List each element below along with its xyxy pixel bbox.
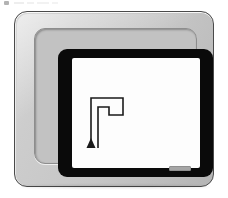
page-scan-artifacts [0, 0, 228, 7]
screenshot-root [0, 0, 228, 198]
scan-artifact [52, 2, 58, 4]
turtle-graphics-canvas [72, 58, 200, 168]
turtle-cursor-icon [87, 138, 96, 148]
scan-artifact [37, 2, 49, 4]
crt-bezel [58, 49, 213, 177]
monitor-brand-badge [169, 166, 191, 171]
crt-monitor-case [14, 11, 214, 187]
turtle-path [91, 98, 123, 148]
scan-artifact [14, 2, 24, 4]
crt-screen[interactable] [72, 58, 200, 168]
bezel-recess-ring [34, 28, 197, 164]
scan-artifact [4, 1, 9, 5]
scan-artifact [27, 2, 34, 4]
